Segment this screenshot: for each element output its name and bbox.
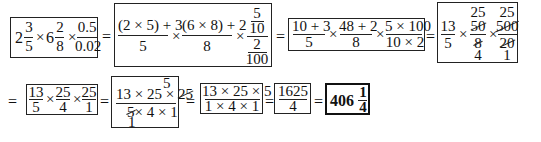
denominator-3: 1: [81, 100, 97, 115]
denominator-text: × 4 × 1: [135, 104, 178, 120]
equals-sign: =: [102, 29, 111, 45]
numerator-text: 13 × 25 ×: [116, 86, 178, 102]
step-2-box: (2 × 5) + 3 5 × (6 × 8) + 2 8 × 5 10 2 1…: [114, 3, 272, 67]
numerator-2: 2: [55, 20, 65, 35]
step-1-box: 2 3 5 × 6 2 8 × 0.5 0.02: [10, 17, 98, 58]
final-answer-box: 406 1 4: [325, 83, 370, 115]
inner-denominator-bottom: 100: [245, 52, 269, 67]
numerator-3: 5 × 100: [385, 19, 425, 34]
numerator-2: (6 × 8) + 2: [182, 18, 232, 33]
denominator-2: 8: [339, 35, 373, 50]
equals-sign: =: [276, 29, 285, 45]
denominator: 1 × 4 × 1: [202, 99, 262, 114]
denominator: 4: [276, 99, 310, 114]
numerator-1: 10 + 3: [292, 19, 326, 34]
cancelled-digits: 500: [496, 18, 519, 34]
numerator-3: 25: [81, 85, 97, 100]
times-sign: ×: [46, 92, 54, 107]
mixed-whole-2: 6: [46, 30, 54, 45]
numerator-1: 13: [440, 19, 456, 34]
step-8-box: 1625 4: [274, 83, 311, 114]
answer-numerator: 1: [358, 85, 368, 100]
mixed-whole-1: 2: [15, 30, 23, 45]
numerator-1: 13: [28, 85, 44, 100]
times-sign: ×: [172, 29, 180, 44]
times-sign: ×: [36, 30, 44, 45]
times-sign: ×: [236, 29, 244, 44]
times-sign: ×: [459, 27, 467, 42]
cancel-result-below: 4: [468, 48, 488, 63]
numerator: 13 × 25 × 25: [116, 87, 193, 102]
inner-numerator-bottom: 10: [247, 21, 267, 36]
equals-sign: =: [314, 94, 323, 110]
equals-sign: =: [265, 94, 274, 110]
step-5-box: 13 5 × 25 4 × 25 1: [26, 84, 98, 115]
cancel-result-below: 1: [128, 115, 136, 130]
equals-sign: =: [100, 94, 109, 110]
times-sign: ×: [376, 27, 384, 42]
answer-denominator: 4: [358, 100, 368, 115]
equals-sign: =: [186, 94, 195, 110]
equals-sign: =: [426, 29, 435, 45]
denominator-2: 8: [182, 39, 232, 54]
numerator-3-cancelled: 500: [496, 19, 518, 34]
denominator-2: 4: [55, 100, 71, 115]
step-7-box: 13 × 25 × 5 1 × 4 × 1: [200, 83, 263, 114]
inner-numerator-top: 5: [247, 6, 267, 21]
denominator-3: 0.02: [75, 39, 99, 54]
fraction-bar: [118, 35, 168, 36]
numerator: 1625: [276, 84, 310, 99]
numerator-1: 3: [24, 20, 34, 35]
times-sign: ×: [329, 27, 337, 42]
denominator-1: 5: [24, 39, 34, 54]
denominator-1: 5: [118, 39, 168, 54]
numerator-2: 48 + 2: [339, 19, 373, 34]
numerator-2-cancelled: 50: [468, 19, 488, 34]
numerator-2: 25: [55, 85, 71, 100]
equals-sign: =: [8, 94, 17, 110]
answer-whole: 406: [330, 93, 354, 108]
denominator-3: 10 × 2: [385, 35, 425, 50]
numerator: 13 × 25 × 5: [202, 84, 262, 99]
cancelled-digits: 50: [471, 18, 486, 34]
numerator-1: (2 × 5) + 3: [118, 18, 168, 33]
denominator-2: 8: [55, 39, 65, 54]
inner-denominator-top: 2: [247, 37, 267, 52]
denominator-1: 5: [292, 35, 326, 50]
denominator-1: 5: [440, 36, 456, 51]
denominator-1: 5: [28, 100, 44, 115]
fraction-bar: [182, 35, 232, 36]
step-4-box: 13 5 × 25 50 8 4 × 25 500 20 1: [437, 2, 518, 63]
numerator-3: 0.5: [77, 20, 97, 35]
step-6-box: 5 13 × 25 × 25 5× 4 × 1 1: [111, 76, 179, 128]
cancel-result-below: 1: [496, 48, 518, 63]
step-3-box: 10 + 3 5 × 48 + 2 8 × 5 × 100 10 × 2: [288, 18, 425, 51]
